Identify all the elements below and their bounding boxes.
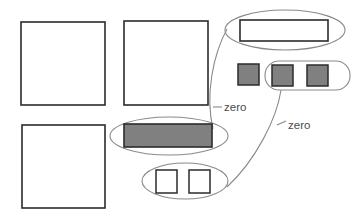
schematic-diagram: zero zero <box>0 0 360 220</box>
white-square-pair-right <box>189 170 210 193</box>
connector-zero-1-curve <box>210 29 227 129</box>
square-top-middle <box>124 21 208 105</box>
square-top-left <box>21 22 105 105</box>
filled-squares <box>238 64 328 86</box>
white-square-pair-left <box>156 170 177 193</box>
zero-label-1: zero <box>224 101 246 113</box>
white-bar <box>240 20 328 41</box>
square-bottom-left <box>22 125 105 208</box>
connector-lines <box>210 29 286 187</box>
connector-zero-2-tick <box>277 121 286 125</box>
gray-bar <box>124 124 212 147</box>
labels: zero zero <box>224 101 310 131</box>
zero-label-2: zero <box>288 119 310 131</box>
filled-square-pair-right <box>307 65 328 86</box>
filled-square-pair-left <box>272 65 293 86</box>
plain-squares <box>21 21 208 208</box>
white-squares <box>156 170 210 193</box>
diagram-canvas: zero zero <box>0 0 360 220</box>
filled-square-standalone <box>238 64 259 85</box>
group-white-square-pair-ellipse <box>142 163 228 199</box>
